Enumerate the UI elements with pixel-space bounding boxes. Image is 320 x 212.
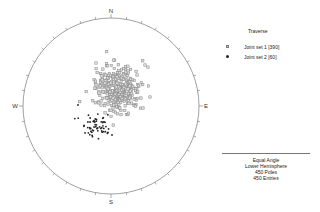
pole-point xyxy=(77,117,79,119)
pole-point xyxy=(118,72,120,74)
pole-point xyxy=(101,79,103,81)
pole-point xyxy=(87,121,89,123)
pole-point xyxy=(107,88,109,90)
pole-point xyxy=(139,107,141,109)
tick-mark xyxy=(155,28,156,30)
pole-point xyxy=(113,104,115,106)
pole-point xyxy=(95,120,97,122)
pole-point xyxy=(99,81,101,83)
pole-point xyxy=(95,62,97,64)
south-label: S xyxy=(109,199,113,205)
pole-point xyxy=(112,72,114,74)
legend-item-joint-set-2: Joint set 2 [60] xyxy=(222,54,312,62)
pole-point xyxy=(112,75,114,77)
stereonet-plot: N S E W xyxy=(0,0,222,212)
pole-point xyxy=(102,125,104,127)
pole-point xyxy=(123,100,125,102)
pole-point xyxy=(92,100,94,102)
pole-point xyxy=(112,97,114,99)
pole-point xyxy=(126,74,128,76)
pole-point xyxy=(99,126,101,128)
joint-set-2-poles xyxy=(74,104,113,139)
pole-point xyxy=(137,91,139,93)
pole-point xyxy=(118,69,120,71)
pole-point xyxy=(98,102,100,104)
legend-title: Traverse xyxy=(248,28,268,34)
pole-point xyxy=(149,96,151,98)
tick-mark xyxy=(187,61,189,62)
pole-point xyxy=(113,82,115,84)
pole-point xyxy=(113,59,115,61)
tick-mark xyxy=(33,61,35,62)
pole-point xyxy=(97,127,99,129)
pole-point xyxy=(128,97,130,99)
pole-point xyxy=(97,130,99,132)
pole-point xyxy=(124,83,126,85)
joint-set-1-poles xyxy=(79,51,152,127)
pole-point xyxy=(142,107,144,109)
pole-point xyxy=(127,112,129,114)
pole-point xyxy=(106,93,108,95)
pole-point xyxy=(74,118,76,120)
pole-point xyxy=(100,128,102,130)
pole-point xyxy=(109,96,111,98)
pole-point xyxy=(101,97,103,99)
tick-mark xyxy=(141,21,142,23)
pole-point xyxy=(115,89,117,91)
divider xyxy=(222,153,310,154)
pole-point xyxy=(104,131,106,133)
tick-mark xyxy=(66,182,67,184)
pole-point xyxy=(110,109,112,111)
tick-mark xyxy=(194,136,196,137)
pole-point xyxy=(107,99,109,101)
pole-point xyxy=(120,113,122,115)
tick-mark xyxy=(53,37,55,39)
tick-mark xyxy=(168,173,170,175)
pole-point xyxy=(120,80,122,82)
pole-point xyxy=(107,74,109,76)
tick-mark xyxy=(141,189,142,191)
north-label: N xyxy=(109,8,113,14)
pole-point xyxy=(104,121,106,123)
pole-point xyxy=(104,82,106,84)
tick-mark xyxy=(194,75,196,76)
pole-point xyxy=(110,115,112,117)
pole-point xyxy=(95,84,97,86)
pole-point xyxy=(107,114,109,116)
pole-point xyxy=(124,109,126,111)
pole-point xyxy=(140,97,142,99)
pole-point xyxy=(98,138,100,140)
pole-point xyxy=(98,92,100,94)
pole-point xyxy=(99,85,101,87)
pole-point xyxy=(136,74,138,76)
pole-point xyxy=(136,97,138,99)
pole-point xyxy=(123,86,125,88)
pole-point xyxy=(89,117,91,119)
pole-point xyxy=(115,106,117,108)
pole-point xyxy=(123,67,125,69)
open-square-icon xyxy=(226,45,229,48)
pole-point xyxy=(92,130,94,132)
pole-point xyxy=(93,120,95,122)
east-label: E xyxy=(204,103,208,109)
pole-point xyxy=(119,107,121,109)
pole-point xyxy=(94,80,96,82)
pole-point xyxy=(115,86,117,88)
pole-point xyxy=(105,74,107,76)
pole-point xyxy=(134,105,136,107)
tick-mark xyxy=(80,21,81,23)
pole-point xyxy=(94,102,96,104)
pole-point xyxy=(110,82,112,84)
pole-point xyxy=(130,102,132,104)
pole-point xyxy=(105,51,107,53)
pole-point xyxy=(106,77,108,79)
pole-point xyxy=(77,104,79,106)
filled-dot-icon xyxy=(226,55,229,58)
pole-point xyxy=(113,67,115,69)
pole-point xyxy=(112,124,114,126)
pole-point xyxy=(127,88,129,90)
entry-count: 450 Entries xyxy=(222,175,310,181)
pole-point xyxy=(102,121,104,123)
pole-point xyxy=(127,70,129,72)
pole-point xyxy=(97,113,99,115)
